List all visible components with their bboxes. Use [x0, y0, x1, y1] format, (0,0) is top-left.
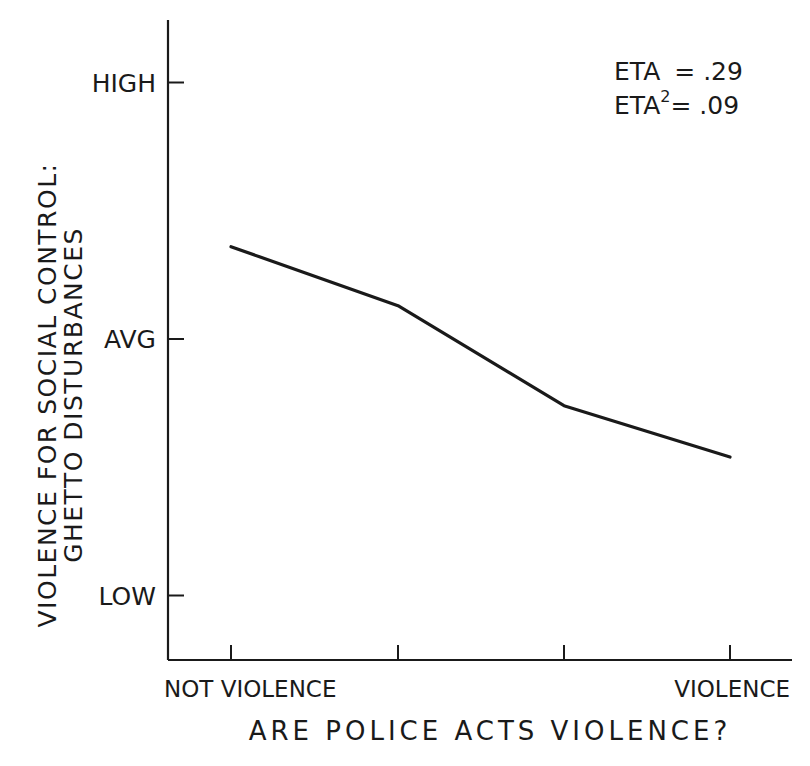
line-chart: HIGHAVGLOW NOT VIOLENCEVIOLENCE VIOLENCE… [0, 0, 810, 766]
x-tick-label-violence: VIOLENCE [674, 676, 790, 702]
y-tick-label-high: HIGH [92, 69, 156, 98]
y-axis-title: VIOLENCE FOR SOCIAL CONTROL: GHETTO DIST… [33, 162, 88, 627]
data-line [231, 247, 730, 457]
eta-text: ETA= .29 [614, 57, 743, 86]
x-ticks: NOT VIOLENCEVIOLENCE [164, 645, 790, 702]
eta-annotation: ETA= .29 ETA2= .09 [614, 57, 743, 120]
y-tick-label-low: LOW [99, 582, 156, 611]
x-axis-title: ARE POLICE ACTS VIOLENCE? [249, 716, 731, 746]
y-ticks: HIGHAVGLOW [92, 69, 184, 611]
y-axis-title-line2: GHETTO DISTURBANCES [59, 227, 88, 563]
eta-squared-text: ETA2= .09 [614, 87, 739, 120]
x-tick-label-not-violence: NOT VIOLENCE [164, 676, 336, 702]
y-tick-label-avg: AVG [104, 325, 156, 354]
y-axis-title-line1: VIOLENCE FOR SOCIAL CONTROL: [33, 162, 62, 627]
